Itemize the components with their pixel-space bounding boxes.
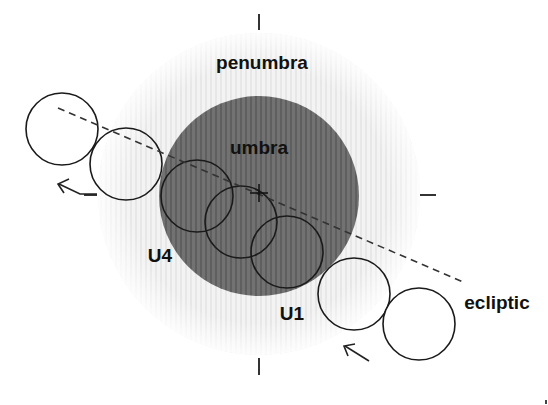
u1-label: U1 [280,303,305,324]
ecliptic-label: ecliptic [464,292,530,313]
moon-circle [383,288,455,360]
umbra-label: umbra [230,137,289,158]
diagram-canvas: penumbra umbra U4 U1 ecliptic [0,0,548,405]
penumbra-label: penumbra [216,52,308,73]
corner-mark [545,400,547,404]
moon-circle [26,93,98,165]
exit-arrow-icon [58,179,97,194]
eclipse-diagram: penumbra umbra U4 U1 ecliptic [0,0,548,405]
entry-arrow-icon [344,344,369,361]
u4-label: U4 [148,245,173,266]
